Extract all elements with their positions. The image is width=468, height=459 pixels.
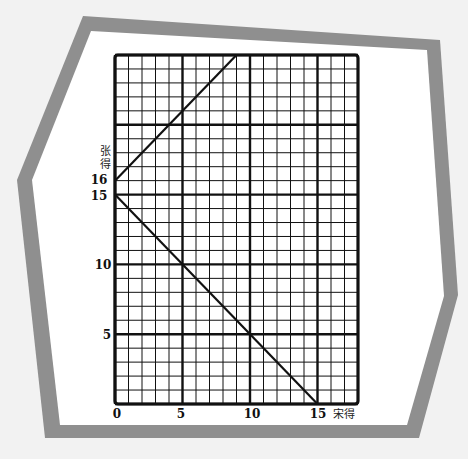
x-axis-title: 宋得 — [333, 407, 355, 421]
x-tick-0: 0 — [113, 407, 121, 421]
y-tick-10: 10 — [95, 258, 112, 272]
paper-sheet — [32, 31, 444, 425]
y-tick-15: 15 — [91, 189, 108, 203]
y-axis-title-char-2: 得 — [100, 158, 111, 171]
y-tick-16: 16 — [91, 173, 108, 187]
y-axis-title-char-1: 张 — [100, 145, 111, 158]
x-tick-5: 5 — [177, 407, 185, 421]
x-tick-15: 15 — [310, 407, 327, 421]
y-tick-5: 5 — [103, 328, 111, 342]
x-tick-10: 10 — [244, 407, 261, 421]
chart-canvas: 16 15 10 5 张 得 0 5 10 15 宋得 — [0, 0, 468, 459]
